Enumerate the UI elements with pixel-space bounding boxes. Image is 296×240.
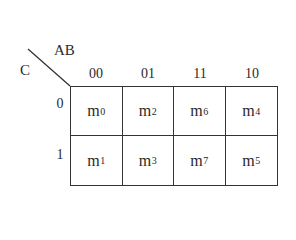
minterm-label: m xyxy=(242,152,254,170)
minterm-index: 6 xyxy=(203,106,208,117)
column-variable-label: AB xyxy=(54,43,75,58)
minterm-index: 3 xyxy=(152,155,157,166)
minterm-label: m xyxy=(190,102,202,120)
minterm-label: m xyxy=(139,102,151,120)
minterm-index: 4 xyxy=(255,106,260,117)
row-header-0: 0 xyxy=(53,97,67,111)
kmap-cell: m0 xyxy=(71,87,123,136)
kmap-cell: m5 xyxy=(226,136,278,185)
minterm-index: 5 xyxy=(255,155,260,166)
karnaugh-map-grid: m0 m2 m6 m4 m1 m3 m7 m5 xyxy=(70,86,278,186)
column-header-10: 10 xyxy=(226,67,278,81)
minterm-label: m xyxy=(139,152,151,170)
kmap-cell: m3 xyxy=(123,136,175,185)
minterm-label: m xyxy=(87,152,99,170)
kmap-cell: m2 xyxy=(123,87,175,136)
minterm-index: 7 xyxy=(203,155,208,166)
minterm-index: 0 xyxy=(100,106,105,117)
minterm-label: m xyxy=(87,102,99,120)
kmap-cell: m7 xyxy=(174,136,226,185)
column-header-01: 01 xyxy=(122,67,174,81)
column-header-11: 11 xyxy=(174,67,226,81)
row-header-1: 1 xyxy=(53,148,67,162)
kmap-cell: m1 xyxy=(71,136,123,185)
column-header-00: 00 xyxy=(70,67,122,81)
minterm-index: 2 xyxy=(152,106,157,117)
kmap-cell: m4 xyxy=(226,87,278,136)
minterm-label: m xyxy=(242,102,254,120)
minterm-label: m xyxy=(190,152,202,170)
minterm-index: 1 xyxy=(100,155,105,166)
kmap-cell: m6 xyxy=(174,87,226,136)
row-variable-label: C xyxy=(20,63,30,78)
